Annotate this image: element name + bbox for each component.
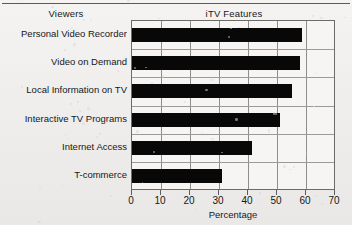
top-divider-rule: [2, 3, 350, 4]
bar-row: [132, 106, 334, 134]
scan-speckle: [162, 75, 164, 77]
scan-speckle: [315, 195, 317, 197]
bar-row: [132, 77, 334, 105]
scan-speckle: [211, 138, 213, 140]
scan-speckle: [344, 17, 346, 19]
scan-speckle: [136, 130, 138, 132]
scan-speckle: [320, 17, 322, 19]
bar-row: [132, 134, 334, 162]
bar-row: [132, 162, 334, 190]
bar: [132, 84, 292, 98]
x-axis-title: Percentage: [131, 209, 335, 220]
plot-area: [131, 20, 335, 190]
scan-speckle: [273, 112, 276, 115]
bar: [132, 56, 300, 70]
scan-speckle: [48, 148, 49, 149]
bar-row: [132, 21, 334, 49]
scan-speckle: [312, 15, 313, 16]
scan-speckle: [38, 221, 40, 223]
column-header-viewers: Viewers: [0, 8, 132, 19]
scan-speckle: [293, 166, 295, 168]
category-axis-labels: Personal Video RecorderVideo on DemandLo…: [0, 20, 129, 190]
category-label: Video on Demand: [0, 56, 127, 67]
scan-speckle: [252, 217, 254, 219]
scan-speckle: [210, 130, 211, 131]
scan-speckle: [228, 36, 230, 38]
x-tick-label: 50: [264, 195, 288, 206]
scan-speckle: [313, 106, 314, 107]
category-label: Local Information on TV: [0, 84, 127, 95]
scan-speckle: [89, 65, 91, 67]
x-tick-label: 60: [293, 195, 317, 206]
x-tick-label: 70: [322, 195, 346, 206]
scan-speckle: [134, 67, 136, 69]
x-tick-label: 20: [177, 195, 201, 206]
x-tick-label: 40: [235, 195, 259, 206]
x-tick-label: 30: [206, 195, 230, 206]
scan-speckle: [79, 110, 80, 111]
scan-speckle: [238, 27, 239, 28]
scan-speckle: [73, 43, 76, 46]
scan-speckle: [119, 34, 120, 35]
scan-speckle: [289, 169, 291, 171]
scan-speckle: [39, 188, 41, 190]
scan-speckle: [259, 192, 261, 194]
scan-speckle: [67, 138, 68, 139]
scan-speckle: [77, 101, 78, 102]
scan-speckle: [87, 107, 89, 109]
scan-speckle: [105, 121, 107, 123]
x-tick-label: 0: [119, 195, 143, 206]
category-label: Personal Video Recorder: [0, 28, 127, 39]
bar: [132, 169, 222, 183]
scan-speckle: [64, 49, 66, 51]
scan-speckle: [230, 28, 231, 29]
x-axis-ticks: 010203040506070: [131, 190, 335, 196]
bar: [132, 113, 280, 127]
scan-speckle: [235, 118, 238, 121]
scan-speckle: [275, 113, 277, 115]
scan-speckle: [210, 79, 212, 81]
category-label: T-commerce: [0, 169, 127, 180]
scan-speckle: [70, 103, 72, 105]
scan-speckle: [205, 89, 207, 91]
scan-speckle: [283, 165, 285, 167]
chart-figure: Viewers iTV Features Personal Video Reco…: [0, 0, 352, 225]
bar: [132, 28, 302, 42]
scan-speckle: [158, 18, 159, 19]
scan-speckle: [110, 195, 112, 197]
scan-speckle: [21, 0, 22, 1]
chart-title-itv-features: iTV Features: [132, 8, 336, 19]
scan-speckle: [202, 132, 203, 133]
category-label: Internet Access: [0, 141, 127, 152]
scan-speckle: [315, 72, 316, 73]
category-label: Interactive TV Programs: [0, 113, 127, 124]
x-tick-label: 10: [148, 195, 172, 206]
bar-row: [132, 49, 334, 77]
bar: [132, 141, 252, 155]
